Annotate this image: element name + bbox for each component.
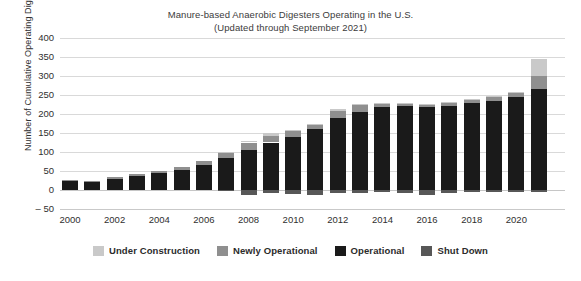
bar-group[interactable]: [441, 38, 457, 209]
bar-segment-newly-operational: [84, 181, 100, 182]
bar-segment-shut-down: [508, 190, 524, 192]
bar-group[interactable]: [397, 38, 413, 209]
bar-segment-under-construction: [419, 104, 435, 105]
x-tick-label: 2006: [179, 214, 229, 225]
bar-segment-operational: [151, 173, 167, 190]
y-tick-label: 300: [14, 70, 54, 81]
bar-segment-newly-operational: [419, 105, 435, 107]
bar-group[interactable]: [374, 38, 390, 209]
bar-segment-operational: [218, 158, 234, 190]
legend-swatch-icon: [335, 246, 346, 256]
bar-segment-newly-operational: [263, 136, 279, 143]
bar-group[interactable]: [263, 38, 279, 209]
bar-segment-newly-operational: [441, 103, 457, 106]
bar-segment-shut-down: [464, 190, 480, 192]
bar-segment-shut-down: [419, 190, 435, 195]
chart-subtitle: (Updated through September 2021): [0, 21, 581, 34]
bar-segment-under-construction: [508, 92, 524, 93]
bar-segment-operational: [263, 143, 279, 191]
bar-group[interactable]: [62, 38, 78, 209]
bar-group[interactable]: [352, 38, 368, 209]
bar-segment-operational: [486, 101, 502, 190]
x-tick-label: 2012: [313, 214, 363, 225]
y-tick-label: – 50: [14, 203, 54, 214]
bar-group[interactable]: [508, 38, 524, 209]
bar-segment-newly-operational: [151, 171, 167, 173]
bar-segment-under-construction: [263, 133, 279, 135]
plot-area: [60, 38, 565, 209]
y-tick-label: 200: [14, 108, 54, 119]
bar-segment-operational: [107, 179, 123, 190]
bar-segment-newly-operational: [107, 177, 123, 179]
bar-segment-operational: [285, 137, 301, 190]
bar-segment-shut-down: [374, 190, 390, 192]
bar-group[interactable]: [129, 38, 145, 209]
legend-item[interactable]: Under Construction: [93, 245, 200, 256]
y-tick-label: 0: [14, 184, 54, 195]
x-tick-label: 2002: [90, 214, 140, 225]
bar-group[interactable]: [218, 38, 234, 209]
x-tick-label: 2018: [447, 214, 497, 225]
bar-group[interactable]: [174, 38, 190, 209]
legend-item[interactable]: Newly Operational: [217, 245, 318, 256]
y-tick-label: 150: [14, 127, 54, 138]
bar-segment-under-construction: [307, 124, 323, 125]
bar-group[interactable]: [419, 38, 435, 209]
chart-title: Manure-based Anaerobic Digesters Operati…: [0, 8, 581, 21]
legend-label: Under Construction: [109, 245, 200, 256]
bar-group[interactable]: [486, 38, 502, 209]
bar-segment-operational: [419, 107, 435, 190]
bar-segment-newly-operational: [464, 100, 480, 103]
bar-segment-newly-operational: [486, 97, 502, 101]
bar-group[interactable]: [151, 38, 167, 209]
bar-segment-under-construction: [464, 99, 480, 100]
chart-title-block: Manure-based Anaerobic Digesters Operati…: [0, 8, 581, 34]
bar-group[interactable]: [84, 38, 100, 209]
bar-group[interactable]: [531, 38, 547, 209]
bar-segment-shut-down: [285, 190, 301, 194]
bar-group[interactable]: [196, 38, 212, 209]
bar-segment-shut-down: [441, 190, 457, 193]
bar-segment-shut-down: [397, 190, 413, 193]
bar-group[interactable]: [464, 38, 480, 209]
bar-segment-under-construction: [374, 103, 390, 104]
bar-segment-operational: [330, 118, 346, 190]
bar-segment-operational: [196, 165, 212, 190]
legend-swatch-icon: [93, 246, 104, 256]
bar-segment-newly-operational: [508, 93, 524, 97]
bar-segment-newly-operational: [129, 174, 145, 176]
x-tick-label: 2014: [357, 214, 407, 225]
x-axis-line: [60, 209, 565, 210]
legend-item[interactable]: Shut Down: [421, 245, 488, 256]
bar-group[interactable]: [285, 38, 301, 209]
bar-segment-shut-down: [352, 190, 368, 193]
bar-segment-operational: [174, 170, 190, 190]
legend-item[interactable]: Operational: [335, 245, 405, 256]
bar-segment-under-construction: [441, 102, 457, 103]
bar-group[interactable]: [307, 38, 323, 209]
bar-segment-under-construction: [352, 104, 368, 106]
legend-label: Operational: [351, 245, 405, 256]
bar-segment-newly-operational: [62, 180, 78, 181]
bar-segment-newly-operational: [330, 111, 346, 118]
bar-segment-operational: [441, 106, 457, 190]
bar-segment-newly-operational: [531, 76, 547, 89]
bar-segment-under-construction: [531, 59, 547, 76]
bar-segment-under-construction: [241, 141, 257, 143]
bar-segment-newly-operational: [241, 143, 257, 151]
bar-group[interactable]: [241, 38, 257, 209]
bar-segment-operational: [508, 97, 524, 190]
chart-container: Manure-based Anaerobic Digesters Operati…: [0, 0, 581, 281]
x-tick-label: 2004: [134, 214, 184, 225]
legend-swatch-icon: [421, 246, 432, 256]
bar-segment-under-construction: [218, 152, 234, 153]
bar-group[interactable]: [330, 38, 346, 209]
bar-segment-shut-down: [330, 190, 346, 193]
bar-segment-newly-operational: [352, 105, 368, 112]
bar-segment-operational: [397, 106, 413, 190]
bar-group[interactable]: [107, 38, 123, 209]
legend-label: Newly Operational: [233, 245, 318, 256]
legend-label: Shut Down: [437, 245, 488, 256]
bar-segment-operational: [62, 181, 78, 191]
bar-segment-shut-down: [263, 190, 279, 193]
